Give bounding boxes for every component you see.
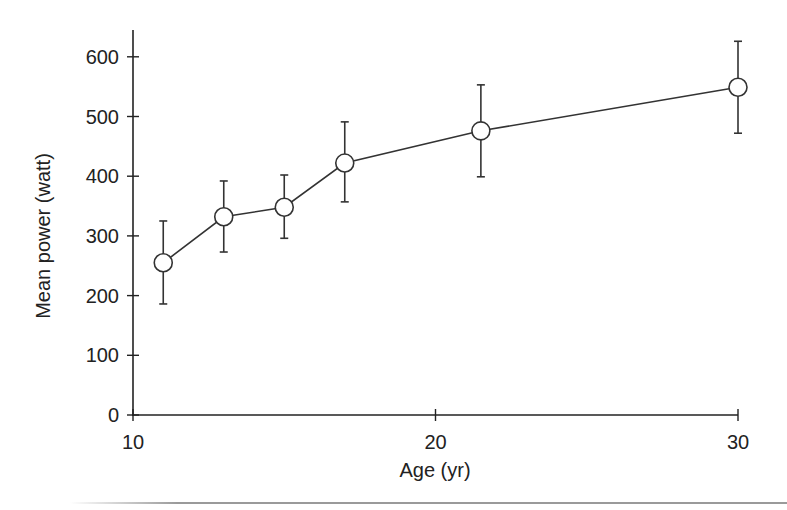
y-axis-label: Mean power (watt)	[32, 153, 54, 319]
x-tick-label: 20	[424, 431, 446, 453]
series-line	[163, 87, 738, 263]
x-tick-label: 30	[727, 431, 749, 453]
data-point-marker	[729, 78, 747, 96]
data-series	[154, 41, 747, 304]
data-point-marker	[154, 254, 172, 272]
x-axis-label: Age (yr)	[399, 459, 470, 481]
line-chart-plot: 0100200300400500600102030 Age (yr) Mean …	[0, 0, 787, 510]
bottom-divider	[70, 502, 787, 504]
y-tick-label: 200	[86, 285, 119, 307]
chart: 0100200300400500600102030 Age (yr) Mean …	[0, 0, 787, 510]
y-tick-label: 400	[86, 165, 119, 187]
y-tick-label: 300	[86, 225, 119, 247]
data-point-marker	[215, 208, 233, 226]
axes: 0100200300400500600102030	[86, 30, 750, 453]
y-tick-label: 100	[86, 344, 119, 366]
y-tick-label: 600	[86, 46, 119, 68]
y-tick-label: 500	[86, 106, 119, 128]
y-tick-label: 0	[108, 404, 119, 426]
data-point-marker	[336, 154, 354, 172]
data-point-marker	[472, 122, 490, 140]
data-point-marker	[275, 198, 293, 216]
x-tick-label: 10	[122, 431, 144, 453]
